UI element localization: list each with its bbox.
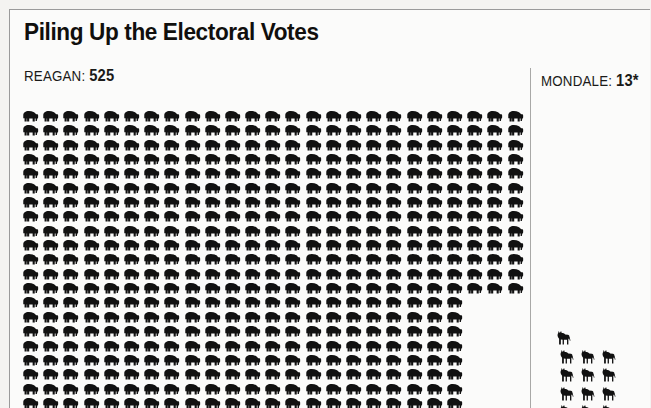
elephant-icon xyxy=(264,354,284,368)
elephant-icon xyxy=(466,139,486,153)
elephant-icon xyxy=(486,182,506,196)
elephant-icon xyxy=(365,383,385,397)
elephant-icon xyxy=(224,153,244,167)
elephant-icon xyxy=(103,354,123,368)
elephant-icon xyxy=(42,383,62,397)
elephant-icon xyxy=(83,110,103,124)
elephant-icon xyxy=(486,239,506,253)
pictogram-row xyxy=(22,383,522,397)
elephant-icon xyxy=(22,124,42,138)
elephant-icon xyxy=(22,268,42,282)
elephant-icon xyxy=(103,311,123,325)
elephant-icon xyxy=(184,182,204,196)
elephant-icon xyxy=(244,182,264,196)
elephant-icon xyxy=(325,124,345,138)
elephant-icon xyxy=(22,296,42,310)
elephant-icon xyxy=(507,124,527,138)
elephant-icon xyxy=(224,139,244,153)
elephant-icon xyxy=(365,153,385,167)
elephant-icon xyxy=(426,383,446,397)
elephant-icon xyxy=(123,340,143,354)
elephant-icon xyxy=(507,153,527,167)
elephant-icon xyxy=(284,253,304,267)
elephant-icon xyxy=(466,182,486,196)
elephant-icon xyxy=(22,182,42,196)
elephant-icon xyxy=(305,296,325,310)
elephant-icon xyxy=(204,340,224,354)
elephant-icon xyxy=(345,268,365,282)
elephant-icon xyxy=(426,268,446,282)
elephant-icon xyxy=(466,239,486,253)
elephant-icon xyxy=(123,139,143,153)
elephant-icon xyxy=(163,354,183,368)
elephant-icon xyxy=(83,239,103,253)
elephant-icon xyxy=(204,296,224,310)
elephant-icon xyxy=(325,340,345,354)
elephant-icon xyxy=(305,110,325,124)
elephant-icon xyxy=(284,383,304,397)
elephant-icon xyxy=(83,167,103,181)
elephant-icon xyxy=(426,325,446,339)
elephant-icon xyxy=(426,225,446,239)
elephant-icon xyxy=(446,268,466,282)
elephant-icon xyxy=(305,397,325,408)
elephant-icon xyxy=(507,196,527,210)
elephant-icon xyxy=(163,210,183,224)
elephant-icon xyxy=(305,139,325,153)
elephant-icon xyxy=(244,325,264,339)
pictogram-row xyxy=(22,296,522,310)
elephant-icon xyxy=(62,139,82,153)
elephant-icon xyxy=(184,340,204,354)
elephant-icon xyxy=(204,167,224,181)
mondale-label: MONDALE: 13* xyxy=(541,72,639,90)
elephant-icon xyxy=(365,397,385,408)
elephant-icon xyxy=(83,253,103,267)
elephant-icon xyxy=(123,253,143,267)
elephant-icon xyxy=(284,282,304,296)
elephant-icon xyxy=(426,368,446,382)
elephant-icon xyxy=(83,311,103,325)
elephant-icon xyxy=(184,397,204,408)
elephant-icon xyxy=(365,268,385,282)
elephant-icon xyxy=(103,153,123,167)
elephant-icon xyxy=(345,139,365,153)
elephant-icon xyxy=(163,196,183,210)
elephant-icon xyxy=(507,253,527,267)
elephant-icon xyxy=(103,167,123,181)
elephant-icon xyxy=(305,368,325,382)
elephant-icon xyxy=(305,239,325,253)
elephant-icon xyxy=(103,139,123,153)
elephant-icon xyxy=(406,253,426,267)
donkey-icon xyxy=(580,404,601,408)
pictogram-row xyxy=(22,182,522,196)
reagan-label: REAGAN: 525 xyxy=(24,67,114,85)
elephant-icon xyxy=(244,296,264,310)
elephant-icon xyxy=(385,253,405,267)
elephant-icon xyxy=(22,368,42,382)
pictogram-row xyxy=(22,253,522,267)
elephant-icon xyxy=(143,196,163,210)
elephant-icon xyxy=(284,167,304,181)
pictogram-row xyxy=(22,110,522,124)
elephant-icon xyxy=(244,253,264,267)
elephant-icon xyxy=(325,182,345,196)
elephant-icon xyxy=(406,268,426,282)
elephant-icon xyxy=(264,225,284,239)
elephant-icon xyxy=(507,110,527,124)
elephant-icon xyxy=(42,139,62,153)
elephant-icon xyxy=(123,354,143,368)
elephant-icon xyxy=(446,167,466,181)
elephant-icon xyxy=(163,239,183,253)
elephant-icon xyxy=(325,139,345,153)
elephant-icon xyxy=(385,239,405,253)
elephant-icon xyxy=(426,354,446,368)
elephant-icon xyxy=(224,110,244,124)
elephant-icon xyxy=(143,239,163,253)
elephant-icon xyxy=(224,124,244,138)
pictogram-row xyxy=(22,139,522,153)
elephant-icon xyxy=(305,210,325,224)
elephant-icon xyxy=(305,268,325,282)
elephant-icon xyxy=(446,225,466,239)
pictogram-row xyxy=(22,124,522,138)
elephant-icon xyxy=(325,383,345,397)
